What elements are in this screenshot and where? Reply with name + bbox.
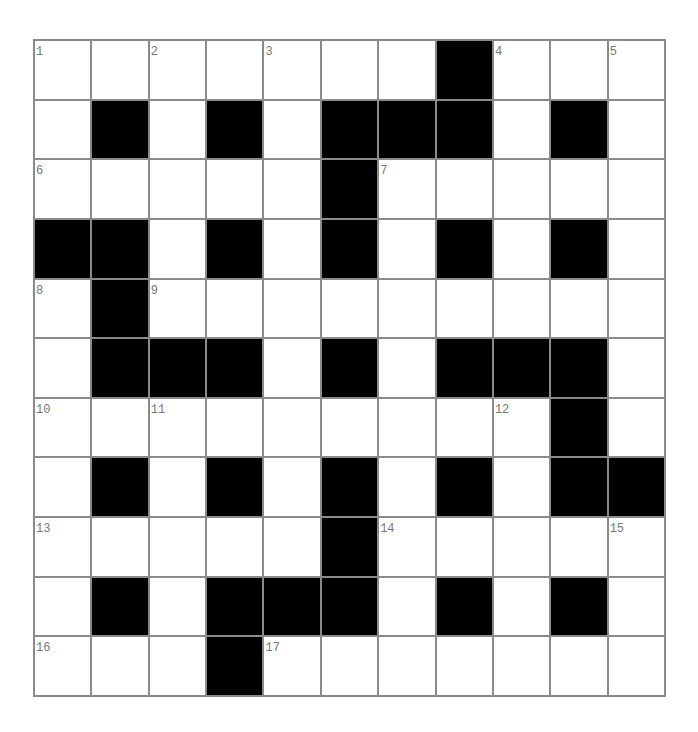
crossword-cell[interactable] (609, 280, 666, 340)
crossword-cell[interactable] (264, 160, 321, 220)
black-cell (322, 518, 379, 578)
black-cell (207, 637, 264, 697)
crossword-cell[interactable] (609, 220, 666, 280)
crossword-cell[interactable] (437, 518, 494, 578)
crossword-cell[interactable] (264, 280, 321, 340)
crossword-cell[interactable] (609, 578, 666, 638)
crossword-cell[interactable] (322, 41, 379, 101)
crossword-cell[interactable] (207, 41, 264, 101)
crossword-cell[interactable] (609, 637, 666, 697)
crossword-cell[interactable] (150, 637, 207, 697)
crossword-cell[interactable] (379, 280, 436, 340)
crossword-cell[interactable] (609, 101, 666, 161)
crossword-cell[interactable]: 13 (35, 518, 92, 578)
crossword-cell[interactable] (379, 399, 436, 459)
crossword-cell[interactable] (264, 101, 321, 161)
crossword-cell[interactable] (92, 41, 149, 101)
crossword-cell[interactable]: 10 (35, 399, 92, 459)
crossword-cell[interactable] (494, 220, 551, 280)
crossword-cell[interactable] (379, 339, 436, 399)
crossword-cell[interactable] (379, 578, 436, 638)
crossword-cell[interactable]: 9 (150, 280, 207, 340)
crossword-cell[interactable] (379, 220, 436, 280)
crossword-cell[interactable] (207, 518, 264, 578)
crossword-cell[interactable]: 5 (609, 41, 666, 101)
clue-number: 4 (495, 46, 502, 58)
crossword-cell[interactable]: 7 (379, 160, 436, 220)
black-cell (92, 458, 149, 518)
crossword-cell[interactable] (551, 280, 608, 340)
crossword-cell[interactable] (35, 578, 92, 638)
crossword-cell[interactable] (551, 637, 608, 697)
crossword-cell[interactable] (494, 518, 551, 578)
crossword-cell[interactable] (264, 399, 321, 459)
crossword-cell[interactable]: 14 (379, 518, 436, 578)
clue-number: 6 (36, 165, 43, 177)
crossword-cell[interactable] (437, 399, 494, 459)
crossword-cell[interactable]: 1 (35, 41, 92, 101)
crossword-cell[interactable]: 17 (264, 637, 321, 697)
crossword-cell[interactable] (609, 160, 666, 220)
crossword-cell[interactable] (322, 399, 379, 459)
crossword-cell[interactable] (494, 101, 551, 161)
crossword-cell[interactable] (264, 518, 321, 578)
crossword-cell[interactable] (150, 578, 207, 638)
crossword-cell[interactable] (379, 458, 436, 518)
black-cell (437, 101, 494, 161)
crossword-cell[interactable] (437, 280, 494, 340)
black-cell (437, 41, 494, 101)
crossword-cell[interactable] (92, 399, 149, 459)
crossword-cell[interactable] (35, 101, 92, 161)
crossword-cell[interactable] (150, 518, 207, 578)
crossword-cell[interactable]: 12 (494, 399, 551, 459)
black-cell (207, 101, 264, 161)
crossword-cell[interactable] (379, 637, 436, 697)
black-cell (437, 578, 494, 638)
black-cell (322, 578, 379, 638)
crossword-cell[interactable] (609, 339, 666, 399)
crossword-cell[interactable]: 6 (35, 160, 92, 220)
crossword-cell[interactable] (494, 160, 551, 220)
black-cell (207, 220, 264, 280)
crossword-cell[interactable]: 16 (35, 637, 92, 697)
crossword-cell[interactable] (437, 160, 494, 220)
crossword-cell[interactable] (494, 280, 551, 340)
crossword-cell[interactable] (609, 399, 666, 459)
crossword-cell[interactable] (322, 637, 379, 697)
crossword-cell[interactable] (437, 637, 494, 697)
crossword-cell[interactable] (92, 637, 149, 697)
crossword-cell[interactable] (264, 458, 321, 518)
crossword-cell[interactable] (150, 160, 207, 220)
crossword-cell[interactable] (92, 518, 149, 578)
black-cell (92, 339, 149, 399)
crossword-cell[interactable]: 11 (150, 399, 207, 459)
crossword-cell[interactable] (150, 458, 207, 518)
crossword-cell[interactable] (264, 339, 321, 399)
crossword-cell[interactable] (551, 160, 608, 220)
crossword-cell[interactable]: 2 (150, 41, 207, 101)
crossword-cell[interactable] (494, 578, 551, 638)
crossword-cell[interactable] (207, 280, 264, 340)
crossword-cell[interactable] (92, 160, 149, 220)
crossword-cell[interactable] (494, 637, 551, 697)
crossword-cell[interactable]: 4 (494, 41, 551, 101)
crossword-cell[interactable] (551, 41, 608, 101)
crossword-cell[interactable]: 8 (35, 280, 92, 340)
crossword-cell[interactable]: 15 (609, 518, 666, 578)
crossword-cell[interactable] (264, 220, 321, 280)
crossword-cell[interactable] (207, 399, 264, 459)
clue-number: 12 (495, 404, 509, 416)
clue-number: 5 (610, 46, 617, 58)
black-cell (551, 339, 608, 399)
crossword-cell[interactable] (322, 280, 379, 340)
crossword-cell[interactable] (35, 458, 92, 518)
crossword-cell[interactable] (150, 101, 207, 161)
crossword-cell[interactable] (207, 160, 264, 220)
crossword-cell[interactable] (494, 458, 551, 518)
crossword-cell[interactable] (379, 41, 436, 101)
crossword-cell[interactable]: 3 (264, 41, 321, 101)
crossword-cell[interactable] (551, 518, 608, 578)
crossword-cell[interactable] (35, 339, 92, 399)
clue-number: 13 (36, 523, 50, 535)
crossword-cell[interactable] (150, 220, 207, 280)
